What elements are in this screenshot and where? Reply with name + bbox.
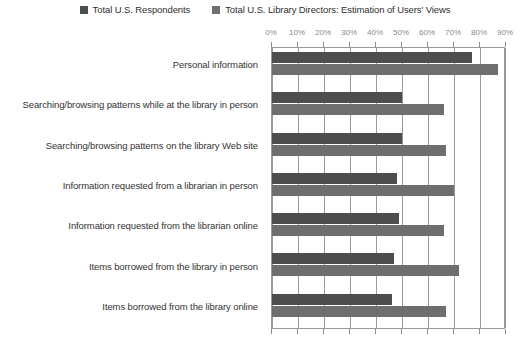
x-tick-mark-bottom-9: [505, 329, 506, 334]
category-label-4: Information requested from the librarian…: [68, 220, 258, 231]
x-tick-mark-bottom-0: [271, 329, 272, 334]
x-tick-mark-bottom-6: [427, 329, 428, 334]
x-tick-label-3: 30%: [341, 28, 357, 37]
bar-series-0-row-6: [272, 294, 392, 305]
bar-row: [272, 209, 504, 249]
x-tick-mark-bottom-7: [453, 329, 454, 334]
bar-series-0-row-0: [272, 52, 472, 63]
bar-row: [272, 48, 504, 88]
legend-label-series-1: Total U.S. Library Directors: Estimation…: [225, 4, 450, 15]
bar-series-0-row-2: [272, 133, 402, 144]
bar-series-1-row-4: [272, 225, 444, 236]
category-label-2: Searching/browsing patterns on the libra…: [46, 139, 258, 150]
bar-series-0-row-1: [272, 92, 402, 103]
x-axis-ticks-bottom: [271, 329, 505, 334]
x-tick-mark-top-9: [505, 42, 506, 47]
x-tick-mark-bottom-5: [401, 329, 402, 334]
legend-swatch-series-0: [80, 6, 88, 14]
plot-area: [271, 47, 505, 329]
bar-series-0-row-4: [272, 213, 399, 224]
bar-series-1-row-6: [272, 306, 446, 317]
legend-label-series-0: Total U.S. Respondents: [93, 4, 191, 15]
bar-series-1-row-3: [272, 185, 454, 196]
x-tick-label-9: 90%: [497, 28, 513, 37]
bar-row: [272, 129, 504, 169]
legend-item-total-us-respondents: Total U.S. Respondents: [80, 4, 191, 15]
bar-series-1-row-5: [272, 265, 459, 276]
bar-series-1-row-2: [272, 145, 446, 156]
bar-row: [272, 290, 504, 330]
x-tick-mark-bottom-2: [323, 329, 324, 334]
x-tick-mark-bottom-3: [349, 329, 350, 334]
bar-row: [272, 249, 504, 289]
bar-rows: [272, 48, 504, 328]
x-tick-label-4: 40%: [367, 28, 383, 37]
x-tick-label-8: 80%: [471, 28, 487, 37]
legend-swatch-series-1: [212, 6, 220, 14]
x-tick-label-6: 60%: [419, 28, 435, 37]
gridline-9: [505, 48, 506, 328]
x-tick-label-1: 10%: [289, 28, 305, 37]
x-tick-label-2: 20%: [315, 28, 331, 37]
category-label-3: Information requested from a librarian i…: [63, 180, 258, 191]
x-tick-mark-bottom-4: [375, 329, 376, 334]
x-tick-label-7: 70%: [445, 28, 461, 37]
x-axis-tick-labels: 0%10%20%30%40%50%60%70%80%90%: [271, 28, 505, 40]
category-label-6: Items borrowed from the library online: [102, 300, 258, 311]
x-tick-mark-bottom-1: [297, 329, 298, 334]
category-label-5: Items borrowed from the library in perso…: [89, 260, 258, 271]
bar-row: [272, 88, 504, 128]
legend-item-library-directors: Total U.S. Library Directors: Estimation…: [212, 4, 450, 15]
bar-series-0-row-3: [272, 173, 397, 184]
bar-series-1-row-1: [272, 104, 444, 115]
chart-figure: Total U.S. Respondents Total U.S. Librar…: [0, 0, 530, 348]
category-label-0: Personal information: [173, 59, 258, 70]
chart-legend: Total U.S. Respondents Total U.S. Librar…: [0, 4, 530, 15]
category-labels: Personal informationSearching/browsing p…: [0, 47, 266, 329]
bar-series-1-row-0: [272, 64, 498, 75]
category-label-1: Searching/browsing patterns while at the…: [22, 99, 258, 110]
x-tick-mark-bottom-8: [479, 329, 480, 334]
x-tick-label-5: 50%: [393, 28, 409, 37]
x-tick-label-0: 0%: [265, 28, 277, 37]
bar-row: [272, 169, 504, 209]
bar-series-0-row-5: [272, 253, 394, 264]
